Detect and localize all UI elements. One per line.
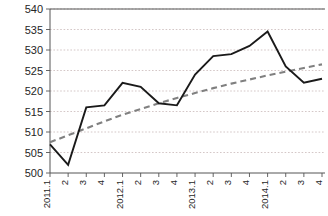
x-tick-labels: 2011.12342012.12342013.12342014.1234 [41, 180, 324, 209]
x-tick-label: 4 [95, 180, 106, 185]
x-tick-label: 3 [222, 180, 233, 185]
y-tick-marks [46, 9, 50, 173]
y-tick-label: 510 [25, 126, 43, 138]
chart-canvas: 500505510515520525530535540 2011.1234201… [0, 0, 328, 216]
y-tick-label: 525 [25, 65, 43, 77]
y-tick-label: 520 [25, 85, 43, 97]
x-tick-label: 2013.1 [186, 180, 197, 209]
x-tick-label: 2 [59, 180, 70, 185]
y-tick-label: 505 [25, 147, 43, 159]
x-tick-marks [50, 173, 322, 177]
x-tick-label: 3 [77, 180, 88, 185]
x-tick-label: 2012.1 [114, 180, 125, 209]
x-tick-label: 3 [150, 180, 161, 185]
x-tick-label: 2011.1 [41, 180, 52, 208]
y-tick-label: 530 [25, 44, 43, 56]
y-tick-label: 540 [25, 3, 43, 15]
x-tick-label: 3 [295, 180, 306, 185]
x-tick-label: 2 [132, 180, 143, 185]
y-tick-label: 515 [25, 106, 43, 118]
x-tick-label: 2 [204, 180, 215, 185]
y-tick-label: 500 [25, 167, 43, 179]
x-tick-label: 4 [240, 180, 251, 185]
y-tick-label: 535 [25, 24, 43, 36]
x-tick-label: 4 [313, 180, 324, 185]
y-tick-labels: 500505510515520525530535540 [25, 3, 43, 179]
line-chart: 500505510515520525530535540 2011.1234201… [0, 0, 328, 216]
x-tick-label: 4 [168, 180, 179, 185]
x-tick-label: 2014.1 [259, 180, 270, 209]
x-tick-label: 2 [277, 180, 288, 185]
